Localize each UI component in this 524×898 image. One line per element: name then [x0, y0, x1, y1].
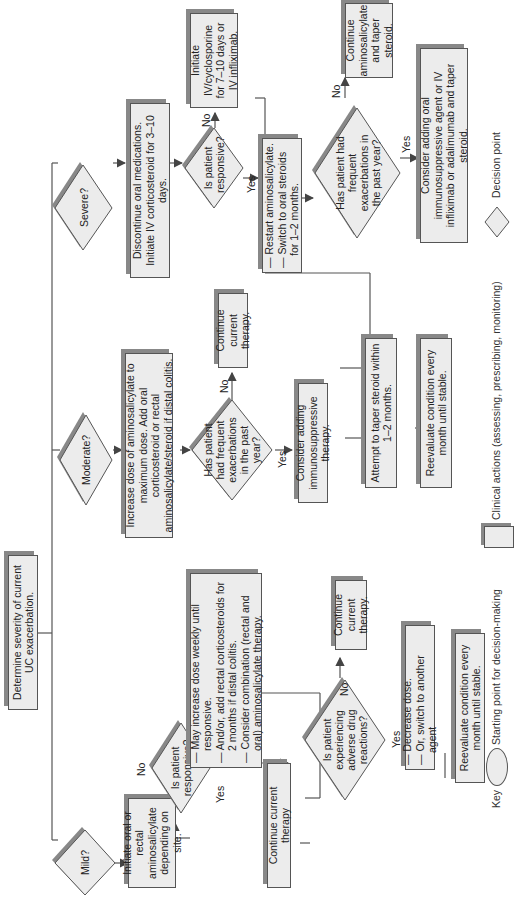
mild-no-actions-box: May increase dose weekly until responsiv…: [190, 573, 262, 768]
mild-continue-text: Continue current therapy: [267, 768, 292, 883]
start-text: Determine severity of current UC exacerb…: [11, 560, 36, 705]
moderate-yes-text: Consider adding immunosuppressive therap…: [294, 388, 332, 498]
severe-no-box: Initiate IV/cyclosporine for 7–10 days o…: [190, 13, 238, 108]
moderate-taper-box: Attempt to taper steroid within 1–2 mont…: [365, 338, 397, 488]
moderate-question: Moderate?: [80, 435, 92, 485]
severe-no-label: No: [200, 114, 212, 127]
severe-freq-yes-box: Consider adding oral immunosuppressive a…: [420, 48, 468, 243]
mild-adverse-no-box: Continue current therapy.: [335, 580, 367, 650]
severe-freq-no-label: No: [330, 85, 342, 98]
mild-continue-box: Continue current therapy: [267, 763, 291, 888]
severe-yes-action-2: Switch to oral steroids for 1–2 months.: [276, 143, 301, 268]
severe-question: Severe?: [78, 188, 90, 227]
mild-reevaluate-box: Reevaluate condition every month until s…: [455, 633, 485, 783]
mild-adverse-no-text: Continue current therapy.: [332, 585, 370, 645]
key-title: Key: [490, 790, 502, 808]
severe-freq-yes-label: Yes: [400, 136, 412, 153]
start-oval-icon: [486, 748, 508, 786]
moderate-taper-text: Attempt to taper steroid within 1–2 mont…: [369, 343, 394, 483]
key-action-label: Clinical actions (assessing, prescribing…: [490, 281, 502, 520]
decision-diamond-icon: [484, 206, 514, 238]
mild-adverse-decision: Is patient experiencing adverse drug rea…: [305, 680, 385, 800]
severe-frequent-question: Has patient had frequent exacerbations i…: [334, 133, 382, 213]
severe-decision: Severe?: [55, 165, 112, 250]
severe-no-text: Initiate IV/cyclosporine for 7–10 days o…: [189, 18, 239, 103]
key-decision-label: Decision point: [490, 132, 502, 198]
mild-adverse-yes-label: Yes: [390, 731, 402, 748]
mild-adverse-yes-box: Decrease dose. Or, switch to another age…: [405, 625, 435, 770]
mild-adverse-no-label: No: [338, 683, 350, 696]
key-start-label: Starting point for decision-making: [490, 589, 502, 745]
severe-discontinue-text: Discontinue oral medications. Initiate I…: [131, 108, 169, 273]
severe-yes-action-1: Restart aminosalicylate.: [263, 143, 276, 268]
moderate-no-label: No: [218, 380, 230, 393]
flowchart-canvas: Determine severity of current UC exacerb…: [0, 0, 524, 898]
mild-decision: Mild?: [55, 830, 115, 895]
moderate-increase-text: Increase dose of aminosalicylate to maxi…: [124, 358, 174, 533]
mild-reevaluate-text: Reevaluate condition every month until s…: [458, 638, 483, 778]
severe-responsive-decision: Is patient responsive?: [185, 128, 243, 208]
mild-initiate-text: Initiate oral or rectal aminosalicylate …: [121, 803, 184, 883]
mild-question: Mild?: [79, 850, 91, 875]
moderate-yes-label: Yes: [276, 451, 288, 468]
severe-freq-no-text: Continue aminosalicylate and taper stero…: [344, 5, 394, 77]
moderate-frequent-question: Has patient had frequent exacerbations i…: [202, 415, 262, 485]
moderate-increase-box: Increase dose of aminosalicylate to maxi…: [125, 353, 173, 538]
action-box-icon: [484, 526, 514, 548]
severe-yes-box: Restart aminosalicylate. Switch to oral …: [262, 138, 302, 273]
moderate-reevaluate-text: Reevaluate condition every month until s…: [424, 343, 449, 483]
mild-adverse-yes-action-1: Decrease dose.: [401, 630, 414, 765]
severe-freq-no-box: Continue aminosalicylate and taper stero…: [345, 3, 393, 78]
moderate-reevaluate-box: Reevaluate condition every month until s…: [420, 338, 452, 488]
moderate-frequent-decision: Has patient had frequent exacerbations i…: [192, 400, 272, 500]
mild-no-action-1: May increase dose weekly until responsiv…: [189, 578, 214, 763]
moderate-no-text: Continue current therapy.: [214, 298, 252, 363]
key-action-text: Clinical actions (assessing, prescribing…: [490, 281, 502, 520]
mild-no-action-3: Consider combination (rectal and oral) a…: [239, 578, 264, 763]
severe-freq-yes-text: Consider adding oral immunosuppressive a…: [419, 53, 469, 238]
mild-adverse-yes-action-2: Or, switch to another agent: [414, 630, 439, 765]
key-legend: Key: [490, 790, 502, 808]
moderate-yes-box: Consider adding immunosuppressive therap…: [298, 383, 328, 503]
mild-no-action-2: And/or, add rectal corticosteroids for 2…: [214, 578, 239, 763]
severe-discontinue-box: Discontinue oral medications. Initiate I…: [130, 103, 170, 278]
severe-responsive-question: Is patient responsive?: [202, 143, 226, 193]
key-start-text: Starting point for decision-making: [490, 589, 502, 745]
severe-frequent-decision: Has patient had frequent exacerbations i…: [315, 108, 400, 238]
start-box: Determine severity of current UC exacerb…: [8, 555, 38, 710]
mild-adverse-question: Is patient experiencing adverse drug rea…: [321, 705, 369, 775]
mild-yes-label: Yes: [214, 786, 226, 803]
key-decision-text: Decision point: [490, 132, 502, 198]
moderate-decision: Moderate?: [60, 415, 112, 505]
mild-no-label: No: [135, 763, 147, 776]
moderate-no-box: Continue current therapy.: [218, 293, 248, 368]
severe-yes-label: Yes: [245, 176, 257, 193]
